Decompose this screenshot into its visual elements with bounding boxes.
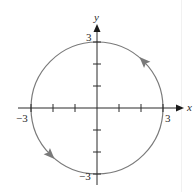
y-axis-arrow-icon [94,24,101,32]
x-tick-label-3: 3 [165,113,171,124]
y-tick-label-neg3: −3 [79,171,91,182]
plot-canvas [0,0,196,192]
circle-diagram: y x 3 −3 −3 3 [0,0,196,192]
x-axis-arrow-icon [176,105,184,112]
x-axis-label: x [187,102,192,113]
y-tick-label-3: 3 [86,32,92,43]
x-tick-label-neg3: −3 [16,113,28,124]
y-axis-label: y [94,12,99,23]
